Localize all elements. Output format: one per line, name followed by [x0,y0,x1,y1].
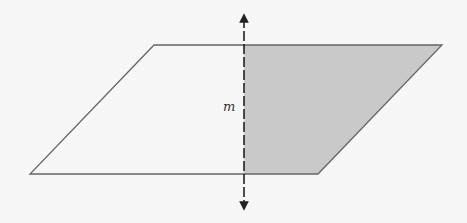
plane-diagram: m [0,0,467,223]
line-m-label: m [223,99,235,114]
diagram-canvas: m [0,0,467,223]
shaded-half-plane [244,45,442,174]
